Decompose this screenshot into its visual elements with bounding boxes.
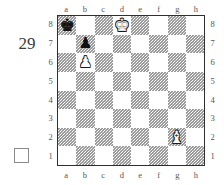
square-e3[interactable]	[131, 109, 149, 128]
square-c3[interactable]	[95, 109, 113, 128]
square-d7[interactable]	[113, 35, 131, 54]
file-label-g: g	[168, 169, 187, 182]
square-d4[interactable]	[113, 91, 131, 110]
square-b4[interactable]	[76, 91, 94, 110]
square-c4[interactable]	[95, 91, 113, 110]
square-e7[interactable]	[131, 35, 149, 54]
square-a7[interactable]	[58, 35, 76, 54]
square-f6[interactable]	[149, 53, 167, 72]
square-a4[interactable]	[58, 91, 76, 110]
square-g7[interactable]	[168, 35, 186, 54]
square-d8[interactable]: ♚	[113, 16, 131, 35]
square-e8[interactable]	[131, 16, 149, 35]
white-bishop-g2[interactable]: ♝	[168, 128, 186, 147]
square-h6[interactable]	[186, 53, 204, 72]
rank-label-6: 6	[206, 53, 219, 72]
rank-label-3: 3	[44, 109, 57, 128]
rank-label-6: 6	[44, 53, 57, 72]
rank-label-2: 2	[206, 128, 219, 147]
square-e6[interactable]	[131, 53, 149, 72]
square-c1[interactable]	[95, 146, 113, 165]
chessboard[interactable]: ♚♚♟♟♝	[57, 15, 205, 166]
square-f3[interactable]	[149, 109, 167, 128]
square-b8[interactable]	[76, 16, 94, 35]
square-c5[interactable]	[95, 72, 113, 91]
chessboard-grid: ♚♚♟♟♝	[58, 16, 204, 165]
square-b6[interactable]: ♟	[76, 53, 94, 72]
square-h1[interactable]	[186, 146, 204, 165]
square-d6[interactable]	[113, 53, 131, 72]
square-h7[interactable]	[186, 35, 204, 54]
square-f1[interactable]	[149, 146, 167, 165]
square-g2[interactable]: ♝	[168, 128, 186, 147]
square-d5[interactable]	[113, 72, 131, 91]
square-e4[interactable]	[131, 91, 149, 110]
black-pawn-b7[interactable]: ♟	[76, 35, 94, 54]
white-king-d8[interactable]: ♚	[113, 16, 131, 35]
square-h5[interactable]	[186, 72, 204, 91]
rank-label-3: 3	[206, 109, 219, 128]
black-king-a8[interactable]: ♚	[58, 16, 76, 35]
square-f8[interactable]	[149, 16, 167, 35]
file-label-b: b	[76, 169, 95, 182]
rank-label-7: 7	[206, 34, 219, 53]
square-g6[interactable]	[168, 53, 186, 72]
rank-label-5: 5	[44, 72, 57, 91]
square-g5[interactable]	[168, 72, 186, 91]
file-labels-bottom: abcdefgh	[57, 169, 205, 182]
file-label-d: d	[113, 169, 132, 182]
square-c6[interactable]	[95, 53, 113, 72]
square-b1[interactable]	[76, 146, 94, 165]
rank-labels-right: 87654321	[206, 15, 219, 166]
square-a5[interactable]	[58, 72, 76, 91]
square-c2[interactable]	[95, 128, 113, 147]
rank-label-8: 8	[206, 15, 219, 34]
square-a2[interactable]	[58, 128, 76, 147]
page-title: 29	[10, 34, 44, 54]
square-f5[interactable]	[149, 72, 167, 91]
square-f7[interactable]	[149, 35, 167, 54]
square-h4[interactable]	[186, 91, 204, 110]
square-h3[interactable]	[186, 109, 204, 128]
file-label-a: a	[57, 169, 76, 182]
square-c7[interactable]	[95, 35, 113, 54]
rank-label-2: 2	[44, 128, 57, 147]
square-b7[interactable]: ♟	[76, 35, 94, 54]
square-a6[interactable]	[58, 53, 76, 72]
rank-label-5: 5	[206, 72, 219, 91]
square-b2[interactable]	[76, 128, 94, 147]
file-label-f: f	[150, 169, 169, 182]
square-d1[interactable]	[113, 146, 131, 165]
chess-diagram: abcdefgh 87654321 ♚♚♟♟♝ 87654321 abcdefg…	[44, 2, 224, 184]
square-a3[interactable]	[58, 109, 76, 128]
square-g4[interactable]	[168, 91, 186, 110]
square-g3[interactable]	[168, 109, 186, 128]
rank-label-7: 7	[44, 34, 57, 53]
rank-label-1: 1	[44, 147, 57, 166]
file-label-c: c	[94, 169, 113, 182]
square-f2[interactable]	[149, 128, 167, 147]
rank-label-8: 8	[44, 15, 57, 34]
square-d2[interactable]	[113, 128, 131, 147]
square-h8[interactable]	[186, 16, 204, 35]
rank-label-1: 1	[206, 147, 219, 166]
rank-label-4: 4	[206, 91, 219, 110]
rank-labels-left: 87654321	[44, 15, 57, 166]
square-c8[interactable]	[95, 16, 113, 35]
square-e1[interactable]	[131, 146, 149, 165]
square-a1[interactable]	[58, 146, 76, 165]
square-g8[interactable]	[168, 16, 186, 35]
square-d3[interactable]	[113, 109, 131, 128]
square-f4[interactable]	[149, 91, 167, 110]
white-pawn-b6[interactable]: ♟	[76, 53, 94, 72]
rank-label-4: 4	[44, 91, 57, 110]
file-label-e: e	[131, 169, 150, 182]
square-e2[interactable]	[131, 128, 149, 147]
square-a8[interactable]: ♚	[58, 16, 76, 35]
square-h2[interactable]	[186, 128, 204, 147]
square-e5[interactable]	[131, 72, 149, 91]
square-b5[interactable]	[76, 72, 94, 91]
file-label-h: h	[187, 169, 206, 182]
square-b3[interactable]	[76, 109, 94, 128]
square-g1[interactable]	[168, 146, 186, 165]
